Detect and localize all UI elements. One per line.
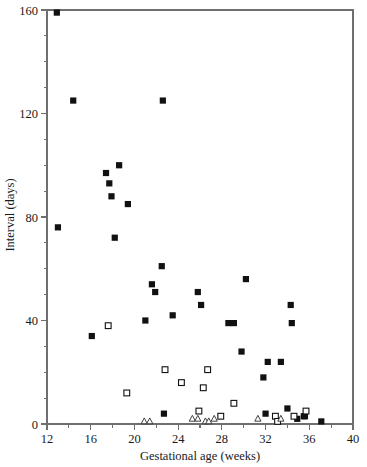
data-point-open-square — [218, 413, 224, 419]
y-axis-tick-label: 80 — [26, 211, 39, 225]
data-point-filled-square — [225, 320, 231, 326]
scatter-plot-figure: 040801201601216202428323640 Gestational … — [0, 0, 367, 467]
data-point-open-triangle — [195, 415, 201, 421]
x-axis-tick-label: 24 — [172, 432, 185, 446]
series-open-square — [105, 323, 309, 425]
data-point-filled-square — [262, 411, 268, 417]
y-axis-tick-label: 120 — [19, 107, 38, 121]
data-point-filled-square — [265, 359, 271, 365]
data-point-open-square — [105, 323, 111, 329]
data-point-filled-square — [231, 320, 237, 326]
y-axis-title: Interval (days) — [3, 178, 17, 251]
axis-frame — [47, 10, 353, 424]
axis-spines — [47, 10, 353, 424]
data-point-open-square — [303, 408, 309, 414]
data-point-open-square — [179, 380, 185, 386]
data-point-open-square — [231, 400, 237, 406]
data-points-group — [54, 9, 325, 424]
data-point-filled-square — [238, 348, 244, 354]
x-axis-tick-label: 32 — [259, 432, 272, 446]
data-point-filled-square — [103, 170, 109, 176]
data-point-filled-square — [55, 224, 61, 230]
y-axis-tick-label: 160 — [19, 4, 38, 18]
data-point-open-square — [162, 367, 168, 373]
data-point-filled-square — [159, 263, 165, 269]
x-axis-title: Gestational age (weeks) — [140, 449, 260, 463]
data-point-filled-square — [278, 359, 284, 365]
data-point-open-square — [200, 385, 206, 391]
x-axis-tick-label: 40 — [347, 432, 360, 446]
data-point-filled-square — [288, 302, 294, 308]
data-point-filled-square — [108, 193, 114, 199]
data-point-open-square — [124, 390, 130, 396]
plot-canvas: 040801201601216202428323640 Gestational … — [0, 0, 367, 467]
data-point-open-triangle — [147, 418, 153, 424]
x-axis-tick-label: 12 — [41, 432, 54, 446]
data-point-open-square — [291, 413, 297, 419]
data-point-filled-square — [152, 289, 158, 295]
data-point-filled-square — [260, 374, 266, 380]
data-point-filled-square — [70, 97, 76, 103]
data-point-filled-square — [112, 235, 118, 241]
x-axis-tick-label: 28 — [216, 432, 229, 446]
data-point-filled-square — [89, 333, 95, 339]
data-point-filled-square — [125, 201, 131, 207]
data-point-filled-square — [161, 411, 167, 417]
tick-labels-group: 040801201601216202428323640 — [19, 4, 359, 447]
y-axis-tick-label: 40 — [26, 314, 39, 328]
data-point-filled-square — [289, 320, 295, 326]
data-point-open-square — [205, 367, 211, 373]
data-point-filled-square — [160, 97, 166, 103]
data-point-filled-square — [54, 9, 60, 15]
data-point-filled-square — [142, 317, 148, 323]
data-point-filled-square — [116, 162, 122, 168]
data-point-open-triangle — [189, 415, 195, 421]
data-point-open-triangle — [141, 418, 147, 424]
x-axis-tick-label: 20 — [128, 432, 141, 446]
data-point-filled-square — [243, 276, 249, 282]
data-point-filled-square — [195, 289, 201, 295]
data-point-open-triangle — [211, 415, 217, 421]
data-point-filled-square — [198, 302, 204, 308]
series-filled-square — [54, 9, 325, 424]
data-point-filled-square — [170, 312, 176, 318]
ticks-group — [41, 10, 353, 430]
axes-group — [47, 10, 353, 424]
y-axis-tick-label: 0 — [32, 418, 38, 432]
data-point-filled-square — [149, 281, 155, 287]
data-point-open-triangle — [255, 415, 261, 421]
data-point-filled-square — [106, 180, 112, 186]
data-point-filled-square — [284, 405, 290, 411]
data-point-filled-square — [318, 418, 324, 424]
x-axis-tick-label: 36 — [303, 432, 316, 446]
data-point-open-square — [196, 408, 202, 414]
x-axis-tick-label: 16 — [84, 432, 97, 446]
